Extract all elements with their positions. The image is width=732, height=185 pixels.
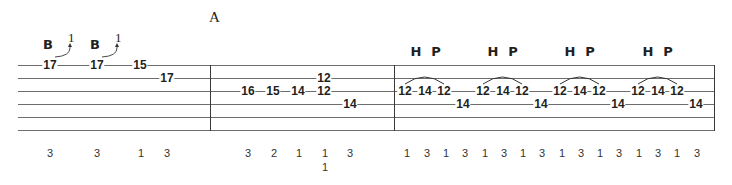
- fret-number: 14: [455, 98, 470, 110]
- fret-number: 14: [495, 85, 510, 97]
- fret-number: 14: [610, 98, 625, 110]
- fret-number: 12: [316, 72, 331, 84]
- fingering-number: 1: [404, 148, 410, 159]
- fret-number: 14: [290, 85, 305, 97]
- fingering-number: 3: [424, 148, 430, 159]
- fingering-number: 3: [501, 148, 507, 159]
- bend-marker: B: [90, 38, 100, 51]
- bend-arrow-icon: [102, 46, 117, 57]
- fret-number: 17: [159, 72, 174, 84]
- fret-number: 12: [669, 85, 684, 97]
- fret-number: 15: [265, 85, 280, 97]
- fingering-number: 1: [597, 148, 603, 159]
- fret-number: 12: [514, 85, 529, 97]
- fingering-number: 3: [347, 148, 353, 159]
- fret-number: 12: [630, 85, 645, 97]
- fingering-number: 1: [674, 148, 680, 159]
- fret-number: 14: [650, 85, 665, 97]
- fret-number: 12: [591, 85, 606, 97]
- pull-off-marker: P: [585, 45, 595, 58]
- bend-amount: 1: [68, 30, 75, 46]
- pull-off-marker: P: [431, 45, 441, 58]
- fingering-number: 1: [322, 148, 328, 159]
- hammer-on-marker: H: [643, 45, 654, 58]
- fret-number: 12: [475, 85, 490, 97]
- bend-amount: 1: [115, 30, 122, 46]
- fret-number: 12: [397, 85, 412, 97]
- fingering-number: 3: [164, 148, 170, 159]
- fingering-number: 3: [616, 148, 622, 159]
- fret-number: 14: [342, 98, 357, 110]
- fingering-number: 1: [559, 148, 565, 159]
- fingering-number: 1: [482, 148, 488, 159]
- slur-arcs: [0, 0, 732, 185]
- slur-arc-icon: [405, 77, 444, 84]
- fret-number: 16: [240, 85, 255, 97]
- fret-number: 15: [132, 59, 147, 71]
- hammer-on-marker: H: [411, 45, 422, 58]
- fret-number: 17: [89, 59, 104, 71]
- fret-number: 14: [572, 85, 587, 97]
- fret-number: 12: [316, 85, 331, 97]
- slur-arc-icon: [483, 77, 522, 84]
- fret-number: 12: [552, 85, 567, 97]
- fingering-number: 1: [520, 148, 526, 159]
- pull-off-marker: P: [508, 45, 518, 58]
- fingering-number: 3: [462, 148, 468, 159]
- fingering-number: 1: [636, 148, 642, 159]
- fingering-number: 3: [539, 148, 545, 159]
- fingering-number: 1: [138, 148, 144, 159]
- hammer-on-marker: H: [565, 45, 576, 58]
- fingering-number: 3: [578, 148, 584, 159]
- pull-off-marker: P: [663, 45, 673, 58]
- hammer-on-marker: H: [488, 45, 499, 58]
- slur-arc-icon: [560, 77, 599, 84]
- bend-marker: B: [43, 38, 53, 51]
- fingering-number: 3: [94, 148, 100, 159]
- fingering-number: 3: [245, 148, 251, 159]
- slur-arc-icon: [638, 77, 677, 84]
- fingering-number: 1: [322, 162, 328, 173]
- fret-number: 14: [533, 98, 548, 110]
- fingering-number: 3: [694, 148, 700, 159]
- fret-number: 17: [42, 59, 57, 71]
- fret-number: 12: [436, 85, 451, 97]
- fingering-number: 2: [271, 148, 277, 159]
- fret-number: 14: [417, 85, 432, 97]
- bend-arrow-icon: [55, 46, 70, 57]
- fingering-number: 1: [296, 148, 302, 159]
- fret-number: 14: [688, 98, 703, 110]
- fingering-number: 3: [47, 148, 53, 159]
- fingering-number: 3: [655, 148, 661, 159]
- fingering-number: 1: [443, 148, 449, 159]
